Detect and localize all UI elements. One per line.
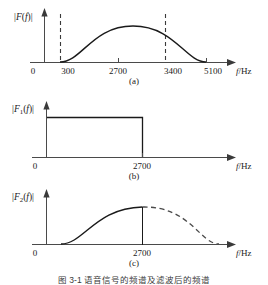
panel-a-ticklabel-5100: 5100 [204, 66, 223, 76]
panel-b-y-axis-arrow [43, 101, 49, 110]
panel-b-rect-pulse [47, 118, 143, 158]
panel-c-x-axis-arrow [227, 241, 236, 248]
panel-b: |F1(f)| 0 2700 f/Hz (b) [0, 92, 268, 180]
panel-c: |F2(f)| 0 2700 f/Hz (c) [0, 180, 268, 274]
panel-c-y-axis-arrow [43, 189, 49, 198]
panel-a-spectrum-curve [60, 26, 206, 62]
panel-c-origin-label: 0 [33, 248, 38, 258]
panel-a-origin-label: 0 [31, 66, 36, 76]
panel-a-ticklabel-300: 300 [61, 66, 75, 76]
figure-caption: 图 3-1 语音信号的频谱及滤波后的频谱 [0, 274, 268, 285]
panel-c-ticklabel-2700: 2700 [133, 248, 152, 258]
panel-b-xlabel: f/Hz [236, 161, 252, 171]
panel-a-ylabel: |F(f)| [14, 12, 33, 23]
panel-b-ticklabel-2700: 2700 [133, 161, 152, 171]
panel-c-removed-spectrum-curve [143, 207, 220, 244]
panel-b-x-axis-arrow [227, 154, 236, 161]
panel-a-xlabel: f/Hz [236, 66, 252, 76]
figure-container: |F(f)| 0 300 2700 3400 5100 f/Hz (a) [0, 0, 268, 285]
panel-b-origin-label: 0 [33, 161, 38, 171]
panel-c-passed-spectrum-curve [61, 207, 143, 244]
panel-a-caption: (a) [0, 76, 268, 86]
panel-c-xlabel: f/Hz [236, 248, 252, 258]
panel-a-x-axis-arrow [227, 59, 236, 66]
panel-a-ticklabel-2700: 2700 [109, 66, 128, 76]
panel-b-ylabel: |F1(f)| [12, 104, 34, 115]
panel-a-ticklabel-3400: 3400 [164, 66, 183, 76]
panel-c-caption: (c) [0, 258, 268, 268]
panel-a-y-axis-arrow [41, 8, 47, 17]
panel-c-ylabel: |F2(f)| [12, 192, 34, 203]
panel-b-plot: |F1(f)| 0 2700 f/Hz [0, 92, 268, 180]
panel-a: |F(f)| 0 300 2700 3400 5100 f/Hz (a) [0, 0, 268, 92]
